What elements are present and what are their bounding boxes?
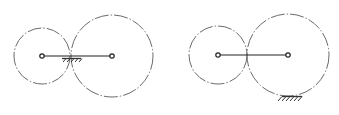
right-panel [189, 14, 329, 101]
pivot-joint-right [286, 53, 290, 57]
ground-hatch [62, 59, 82, 63]
gear-diagram [0, 0, 339, 115]
left-panel [14, 15, 153, 97]
pivot-joint-right [110, 54, 114, 58]
pivot-joint-left [216, 53, 220, 57]
pivot-joint-left [40, 54, 44, 58]
ground-hatch [278, 97, 302, 102]
